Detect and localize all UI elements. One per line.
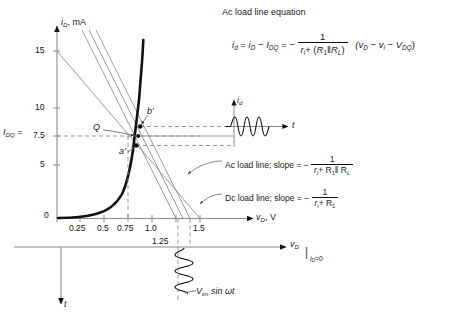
figure-root: Ac load line equation id = iD − IDQ = − … — [0, 0, 449, 323]
overlay-leaders: 7.5 — [0, 0, 449, 323]
